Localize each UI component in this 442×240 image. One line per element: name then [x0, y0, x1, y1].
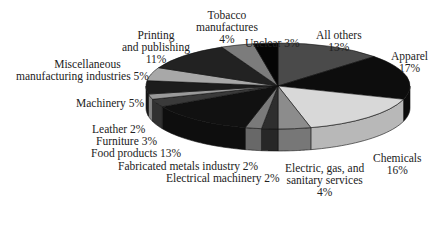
pie-side-4 — [261, 129, 278, 151]
label-fabricated: Fabricated metals industry 2% — [118, 160, 258, 172]
pie-side-3 — [278, 128, 311, 151]
label-electrical-machinery: Electrical machinery 2% — [166, 172, 280, 184]
label-electric-gas: Electric, gas, andsanitary services4% — [285, 162, 364, 198]
label-furniture: Furniture 3% — [96, 135, 157, 147]
label-machinery: Machinery 5% — [76, 97, 144, 109]
label-misc: Miscellaneousmanufacturing industries 5% — [16, 58, 149, 82]
label-chemicals: Chemicals16% — [373, 152, 422, 176]
label-apparel: Apparel17% — [391, 50, 428, 74]
label-unclear: Unclear 3% — [245, 37, 300, 49]
label-leather: Leather 2% — [92, 123, 145, 135]
pie-side-5 — [245, 128, 261, 151]
label-food: Food products 13% — [91, 147, 181, 159]
label-all-others: All others13% — [316, 29, 362, 53]
